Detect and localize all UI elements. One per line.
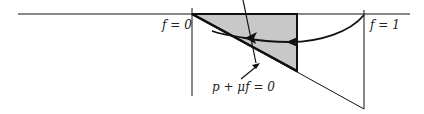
label-f0: f = 0 [162,18,192,32]
label-line-equation: p + μf = 0 [212,80,275,94]
pointer-arrow-head [252,63,260,69]
pointer-arrow-line [241,66,257,79]
label-f1: f = 1 [370,18,400,32]
phase-diagram: f = 0 f = 1 p + μf = 0 [0,0,424,114]
diagram-svg [0,0,424,114]
